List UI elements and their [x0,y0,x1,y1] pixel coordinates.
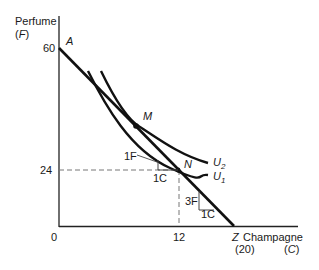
x-axis-label: Champagne [243,231,303,243]
y-axis-symbol: (F) [15,28,29,40]
budget-run-label: 1C [201,208,215,220]
label-a: A [65,35,73,47]
point-m [133,123,139,129]
label-n: N [184,158,192,170]
budget-rise-label: 3F [185,195,198,207]
y-tick-24: 24 [40,164,52,176]
label-u2: U2 [213,156,226,171]
y-axis-label: Perfume [15,15,57,27]
label-u1: U1 [213,170,225,185]
x-axis-symbol: (C) [284,243,299,255]
label-m: M [143,110,153,122]
budget-line [59,48,234,226]
diagram-canvas: Perfume (F) 60 24 0 12 A M N U2 U1 1F 1C… [0,0,319,270]
origin-label: 0 [51,231,57,243]
label-z: Z [231,231,240,243]
mrs-rise-label: 1F [124,150,137,162]
x-intercept-label: (20) [235,243,255,255]
y-tick-60: 60 [43,42,55,54]
x-tick-12: 12 [173,231,185,243]
mrs-run-label: 1C [153,172,167,184]
indifference-curve-u2 [101,71,208,163]
